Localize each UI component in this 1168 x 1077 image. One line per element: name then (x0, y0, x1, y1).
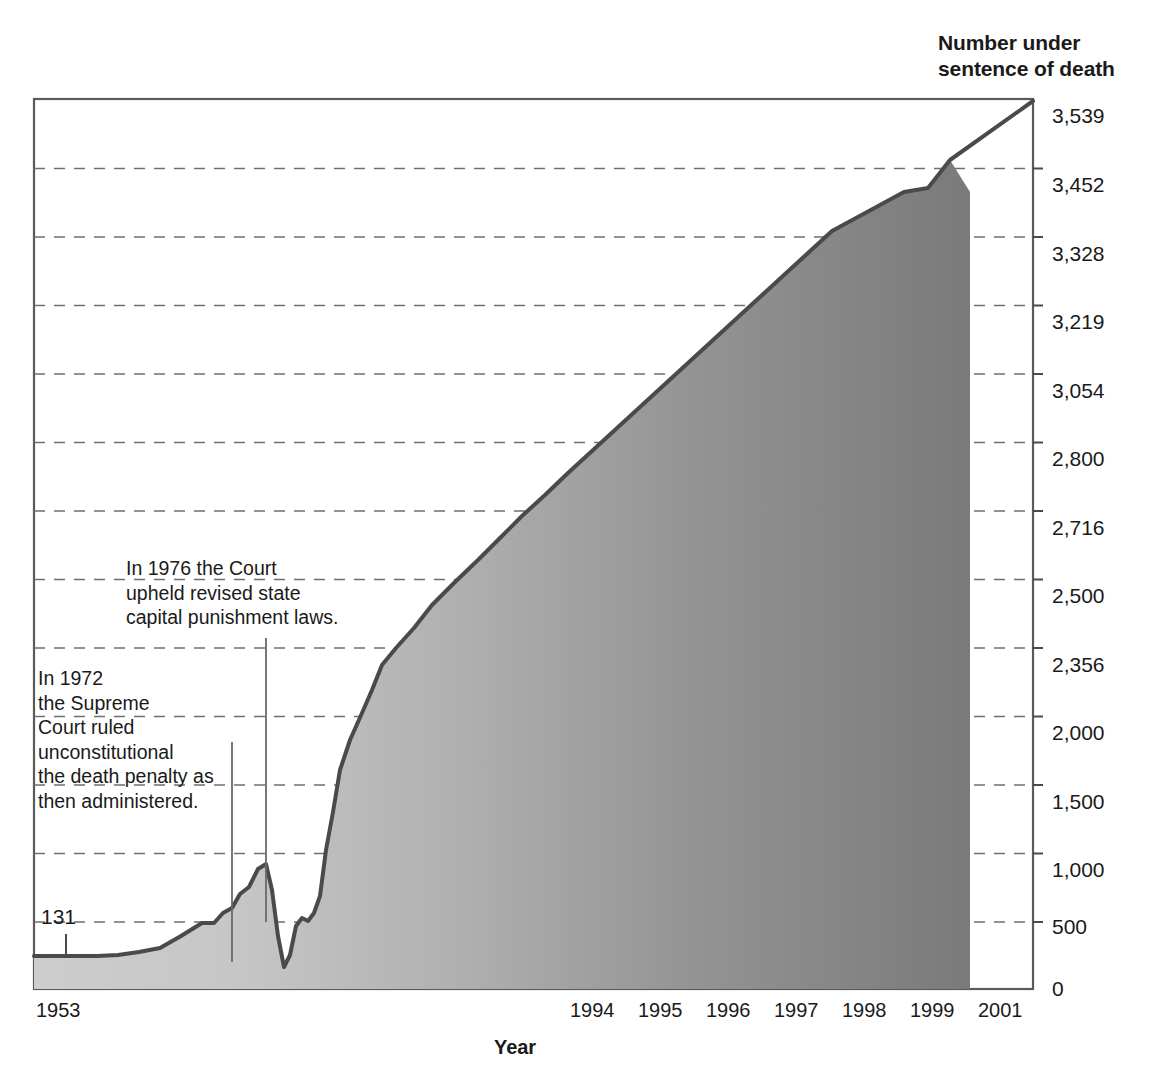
y-tick-label-0: 0 (1052, 978, 1064, 999)
x-tick-label-2001: 2001 (978, 1000, 1023, 1020)
x-axis-title: Year (455, 1034, 575, 1060)
y-tick-label-2716: 2,716 (1052, 517, 1105, 538)
chart-figure: Number under sentence of death (0, 0, 1168, 1077)
y-tick-label-1000: 1,000 (1052, 859, 1105, 880)
point-label-131: 131 (41, 906, 76, 927)
x-tick-label-1996: 1996 (706, 1000, 751, 1020)
y-tick-label-3452: 3,452 (1052, 174, 1105, 195)
x-tick-label-1997: 1997 (774, 1000, 819, 1020)
x-tick-label-1953: 1953 (36, 1000, 81, 1020)
annotation-1976: In 1976 the Court upheld revised state c… (126, 556, 386, 630)
plot-area (0, 0, 1168, 1077)
y-tick-label-2500: 2,500 (1052, 585, 1105, 606)
y-tick-label-3328: 3,328 (1052, 243, 1105, 264)
y-tick-label-3219: 3,219 (1052, 311, 1105, 332)
x-tick-label-1998: 1998 (842, 1000, 887, 1020)
x-tick-label-1994: 1994 (570, 1000, 615, 1020)
y-tick-label-2000: 2,000 (1052, 722, 1105, 743)
y-tick-label-3054: 3,054 (1052, 380, 1105, 401)
y-axis-ticks (1033, 169, 1043, 923)
annotation-1972: In 1972 the Supreme Court ruled unconsti… (38, 666, 258, 813)
y-tick-label-2356: 2,356 (1052, 654, 1105, 675)
x-tick-label-1999: 1999 (910, 1000, 955, 1020)
y-tick-label-500: 500 (1052, 916, 1087, 937)
x-tick-label-1995: 1995 (638, 1000, 683, 1020)
y-tick-label-3539: 3,539 (1052, 105, 1105, 126)
y-tick-label-1500: 1,500 (1052, 791, 1105, 812)
y-tick-label-2800: 2,800 (1052, 448, 1105, 469)
